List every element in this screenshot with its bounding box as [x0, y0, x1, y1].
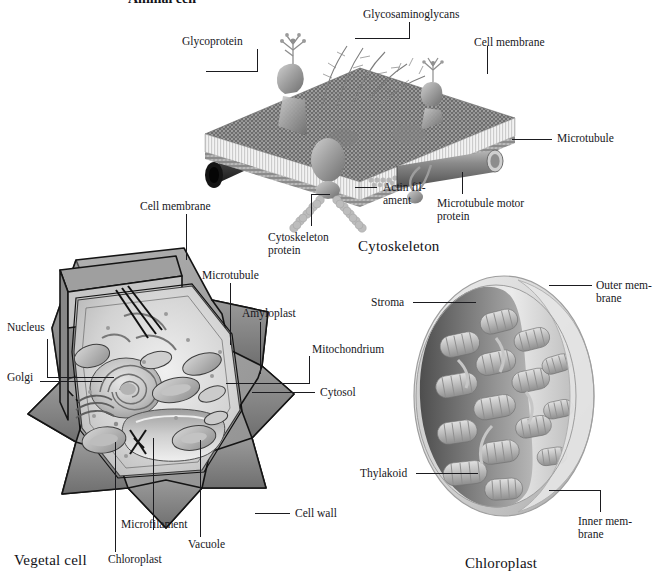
leader-inner-membrane-v — [600, 490, 601, 512]
leader-cytoskeleton-protein-h — [311, 194, 330, 195]
leader-cytoskeleton-protein-v — [311, 194, 312, 226]
membrane-protein-icon-2 — [392, 124, 426, 144]
leader-microtubule-right — [512, 139, 552, 140]
label-microtubule-vegetal: Microtubule — [202, 269, 259, 282]
leader-vacuole — [200, 440, 201, 537]
leader-nucleus — [48, 377, 114, 378]
leader-outer-membrane — [549, 285, 592, 286]
leader-cell-membrane-cyto — [487, 46, 488, 74]
leader-amyloplast — [260, 322, 261, 374]
leader-microfilament — [153, 438, 154, 530]
leader-stroma — [413, 302, 476, 303]
figure-canvas: Animal cell — [0, 0, 657, 582]
leader-chloroplast — [115, 442, 116, 552]
leader-inner-membrane — [549, 490, 601, 491]
label-actin-filament: Actin fil- ament — [383, 181, 425, 206]
chloroplast-illustration — [400, 268, 600, 533]
leader-nucleus-v — [47, 339, 48, 378]
leader-cytosol — [252, 392, 315, 393]
label-nucleus: Nucleus — [7, 321, 45, 334]
leader-motor-protein — [462, 172, 463, 194]
caption-vegetal-cell: Vegetal cell — [14, 552, 87, 569]
label-mitochondrium: Mitochondrium — [312, 343, 384, 356]
label-stroma: Stroma — [371, 296, 404, 309]
glycoprotein-icon-left — [277, 33, 307, 136]
label-cytosol: Cytosol — [320, 386, 356, 399]
glycoprotein-icon-right — [421, 58, 444, 130]
label-glycosaminoglycans: Glycosaminoglycans — [363, 8, 459, 21]
label-microfilament: Microfilament — [121, 518, 187, 531]
leader-glycoprotein — [206, 71, 258, 72]
label-glycoprotein: Glycoprotein — [182, 35, 243, 48]
label-golgi: Golgi — [7, 371, 33, 384]
label-cell-wall: Cell wall — [295, 507, 337, 520]
label-chloroplast: Chloroplast — [108, 553, 162, 566]
leader-actin — [355, 187, 377, 188]
leader-thylakoid — [416, 473, 478, 474]
caption-cytoskeleton: Cytoskeleton — [358, 238, 440, 255]
leader-cell-membrane-vegetal — [186, 214, 187, 260]
label-outer-membrane: Outer mem- brane — [596, 279, 652, 304]
leader-golgi — [40, 381, 102, 382]
label-thylakoid: Thylakoid — [360, 467, 407, 480]
label-inner-membrane: Inner mem- brane — [578, 515, 632, 540]
label-vacuole: Vacuole — [188, 538, 225, 551]
caption-chloroplast: Chloroplast — [465, 555, 537, 572]
label-cell-membrane-vegetal: Cell membrane — [140, 200, 211, 213]
cytoskeleton-protein-icon — [311, 138, 345, 199]
label-microtubule-motor-protein: Microtubule motor protein — [437, 197, 524, 222]
label-cell-membrane-cyto: Cell membrane — [474, 36, 545, 49]
leader-mitochondrium — [226, 383, 310, 384]
label-microtubule-cyto: Microtubule — [557, 132, 614, 145]
leader-cell-wall — [255, 513, 290, 514]
leader-mitochondrium-v — [309, 356, 310, 384]
leader-gag — [355, 38, 410, 39]
leader-microtubule-vegetal — [230, 283, 231, 345]
label-amyloplast: Amyloplast — [242, 307, 296, 320]
leader-glycoprotein-v — [257, 49, 258, 72]
leader-gag-v — [409, 22, 410, 39]
page-title: Animal cell — [128, 0, 196, 7]
vegetal-cell-illustration — [16, 242, 306, 532]
